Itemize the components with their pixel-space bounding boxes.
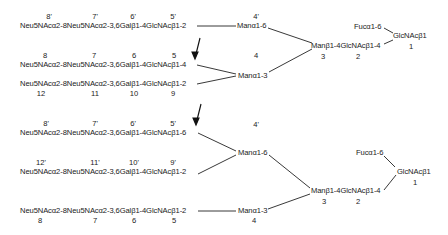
arrow-down-icon — [192, 38, 200, 59]
residue-number: 6 — [124, 217, 144, 225]
residue-number: 6' — [123, 120, 143, 128]
fucose-residue: Fucα1-6 — [356, 149, 383, 157]
residue-number: 8' — [39, 13, 59, 21]
arrow-down-icon — [193, 104, 201, 125]
residue-number: 7 — [85, 217, 105, 225]
residue-number: 8 — [35, 52, 55, 60]
residue-number: 10 — [124, 90, 144, 98]
residue-number: 5' — [163, 13, 183, 21]
residue-number: 11 — [85, 90, 105, 98]
glycan-chain: Neu5NAcα2-8Neu5NAcα2-3,6Galβ1-4GlcNAcβ1-… — [20, 168, 186, 176]
mannose-residue: Manα1-6 — [238, 149, 267, 157]
glycan-chain: Neu5NAcα2-8Neu5NAcα2-3,6Galβ1-4GlcNAcβ1-… — [20, 80, 186, 88]
reducing-end-residue: GlcNAcβ1 — [393, 32, 427, 40]
residue-number: 8' — [36, 120, 56, 128]
residue-number: 9' — [163, 159, 183, 167]
residue-number: 1 — [405, 179, 425, 187]
glycan-chain: Neu5NAcα2-8Neu5NAcα2-3,6Galβ1-4GlcNAcβ1-… — [20, 61, 186, 69]
residue-number: 10' — [124, 159, 144, 167]
core-residues: Manβ1-4GlcNAcβ1-4 — [311, 42, 381, 50]
residue-number: 4 — [246, 52, 266, 60]
residue-number: 11' — [85, 159, 105, 167]
residue-number: 7 — [84, 52, 104, 60]
mannose-residue: Manα1-3 — [238, 207, 267, 215]
residue-number: 4' — [246, 121, 266, 129]
reducing-end-residue: GlcNAcβ1 — [397, 168, 431, 176]
residue-number: 3 — [313, 53, 333, 61]
residue-number: 1 — [401, 43, 421, 51]
residue-number: 6 — [124, 52, 144, 60]
mannose-residue: Manα1-6 — [237, 22, 266, 30]
residue-number: 2 — [348, 198, 368, 206]
glycan-chain: Neu5NAcα2-8Neu5NAcα2-3,6Galβ1-4GlcNAcβ1-… — [20, 207, 186, 215]
residue-number: 4' — [246, 13, 266, 21]
residue-number: 5 — [164, 217, 184, 225]
mannose-residue: Manα1-3 — [238, 72, 267, 80]
residue-number: 5' — [163, 120, 183, 128]
residue-number: 9 — [163, 90, 183, 98]
residue-number: 2 — [348, 53, 368, 61]
core-residues: Manβ1-4GlcNAcβ1-4 — [311, 187, 381, 195]
linkage-lines — [0, 0, 448, 235]
residue-number: 5 — [164, 52, 184, 60]
residue-number: 12' — [31, 159, 51, 167]
residue-number: 12 — [31, 90, 51, 98]
glycan-chain: Neu5NAcα2-8Neu5NAcα2-3,6Galβ1-4GlcNAcβ1-… — [20, 22, 186, 30]
residue-number: 4 — [244, 217, 264, 225]
residue-number: 8 — [30, 217, 50, 225]
fucose-residue: Fucα1-6 — [354, 23, 381, 31]
glycan-chain: Neu5NAcα2-8Neu5NAcα2-3,6Galβ1-4GlcNAcβ1-… — [20, 129, 186, 137]
residue-number: 3 — [314, 198, 334, 206]
residue-number: 7' — [85, 120, 105, 128]
residue-number: 7' — [85, 13, 105, 21]
residue-number: 6' — [123, 13, 143, 21]
